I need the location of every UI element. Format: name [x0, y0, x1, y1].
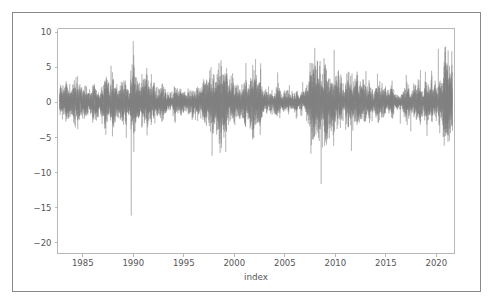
y-tick-label: 5 [46, 62, 51, 72]
plot-canvas: 1050−5−10−15−20 198519901995200020052010… [0, 0, 493, 303]
time-series-chart: 1050−5−10−15−20 198519901995200020052010… [0, 0, 493, 303]
x-tick-label: 2005 [274, 258, 296, 268]
x-tick-label: 1995 [173, 258, 195, 268]
x-tick-label: 2015 [375, 258, 397, 268]
x-tick-label: 2020 [425, 258, 447, 268]
x-tick-label: 2010 [324, 258, 346, 268]
y-tick-label: 0 [46, 97, 51, 107]
x-axis-ticks: 19851990199520002005201020152020 [72, 254, 447, 269]
axes-background [58, 29, 455, 254]
x-axis-title: index [244, 272, 268, 282]
y-tick-label: −15 [34, 203, 52, 213]
axes-region: 1050−5−10−15−20 198519901995200020052010… [34, 27, 455, 282]
y-tick-label: −10 [34, 168, 52, 178]
y-tick-label: 10 [41, 27, 52, 37]
y-tick-label: −20 [34, 238, 52, 248]
x-tick-label: 1985 [72, 258, 94, 268]
y-tick-label: −5 [39, 133, 52, 143]
x-tick-label: 1990 [122, 258, 144, 268]
y-axis-ticks: 1050−5−10−15−20 [34, 27, 58, 248]
x-tick-label: 2000 [223, 258, 245, 268]
